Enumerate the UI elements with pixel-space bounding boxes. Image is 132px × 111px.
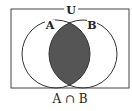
diagram-caption: A ∩ B: [0, 92, 132, 106]
set-b-label: B: [87, 19, 96, 32]
universe-label: U: [66, 4, 76, 17]
set-a-label: A: [45, 19, 55, 32]
